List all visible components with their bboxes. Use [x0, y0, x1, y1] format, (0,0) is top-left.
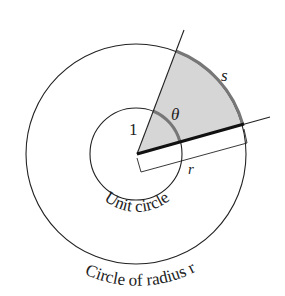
label-s: s — [221, 66, 228, 85]
label-unit-circle: Unit circle — [101, 187, 172, 215]
label-1: 1 — [129, 120, 138, 139]
sector-diagram: 1 θ s r Unit circle Circle of radius r — [0, 0, 285, 296]
label-r: r — [188, 161, 194, 177]
label-theta: θ — [171, 105, 179, 124]
label-outer-circle: Circle of radius r — [83, 258, 199, 290]
